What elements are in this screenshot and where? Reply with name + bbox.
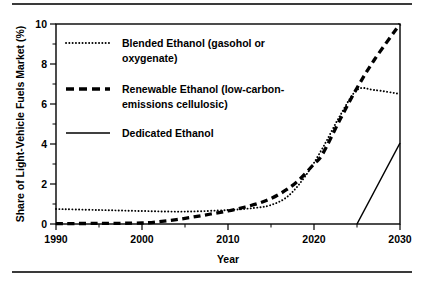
- series-line-dedicated-ethanol: [357, 143, 400, 224]
- bottom-horizontal-rule: [12, 271, 412, 273]
- x-axis-title: Year: [217, 253, 239, 265]
- y-axis-title: Share of Light-Vehicle Fuels Market (%): [14, 26, 26, 223]
- ethanol-market-share-chart: 0246810 19902000201020202030 Share of Li…: [0, 0, 425, 282]
- legend-label-renewable-ethanol-line1: Renewable Ethanol (low-carbon-: [122, 83, 285, 95]
- y-tick-label: 4: [41, 138, 47, 150]
- y-tick-label: 6: [41, 98, 47, 110]
- top-horizontal-rule: [12, 3, 412, 5]
- series-line-renewable-ethanol: [56, 24, 400, 224]
- x-tick-label: 2010: [216, 233, 240, 245]
- y-tick-label: 10: [35, 18, 47, 30]
- y-tick-label: 8: [41, 58, 47, 70]
- legend-label-dedicated-ethanol: Dedicated Ethanol: [122, 127, 214, 139]
- figure-container: 0246810 19902000201020202030 Share of Li…: [0, 0, 425, 282]
- x-axis-ticks: 19902000201020202030: [44, 224, 412, 245]
- x-tick-label: 2030: [388, 233, 412, 245]
- y-tick-label: 2: [41, 178, 47, 190]
- legend-label-blended-ethanol-line2: oxygenate): [122, 52, 177, 64]
- x-tick-label: 2020: [302, 233, 326, 245]
- y-axis-ticks: 0246810: [35, 18, 56, 230]
- legend-label-renewable-ethanol-line2: emissions cellulosic): [122, 98, 228, 110]
- x-tick-label: 2000: [130, 233, 154, 245]
- y-tick-label: 0: [41, 218, 47, 230]
- legend-label-blended-ethanol-line1: Blended Ethanol (gasohol or: [122, 37, 265, 49]
- plot-frame: [56, 24, 400, 224]
- x-tick-label: 1990: [44, 233, 68, 245]
- chart-legend: Blended Ethanol (gasohol or oxygenate) R…: [66, 37, 285, 139]
- series-line-blended-ethanol: [56, 88, 400, 212]
